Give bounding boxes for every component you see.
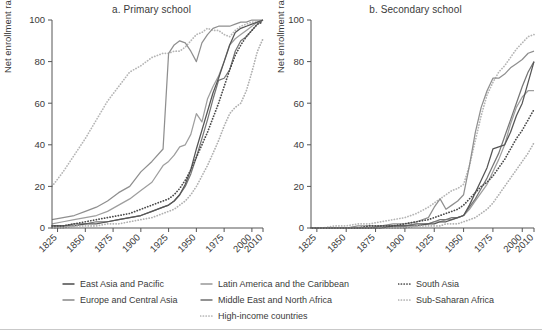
x-tick-label: 1925 bbox=[147, 232, 170, 255]
x-tick-label: 1975 bbox=[472, 232, 495, 255]
series-line-latin_america_caribbean bbox=[311, 91, 534, 228]
legend-item-south_asia[interactable]: South Asia bbox=[398, 276, 538, 292]
series-line-middle_east_north_africa bbox=[311, 62, 534, 228]
x-tick-label: 1825 bbox=[296, 232, 319, 255]
series-line-middle_east_north_africa bbox=[52, 20, 263, 226]
legend-label-latin_america_caribbean: Latin America and the Caribbean bbox=[218, 280, 349, 289]
x-tick-label: 1850 bbox=[325, 232, 348, 255]
panel-b-plot: 0204060801001825185018751900192519501975… bbox=[271, 0, 542, 275]
y-tick-label: 20 bbox=[34, 181, 45, 192]
legend-item-latin_america_caribbean[interactable]: Latin America and the Caribbean bbox=[200, 276, 396, 292]
x-tick-label: 1825 bbox=[36, 232, 59, 255]
x-tick-label: 1975 bbox=[203, 232, 226, 255]
panel-a-plot: 0204060801001825185018751900192519501975… bbox=[0, 0, 271, 275]
series-line-high_income_countries bbox=[311, 35, 534, 228]
legend-label-europe_central_asia: Europe and Central Asia bbox=[80, 296, 178, 305]
y-tick-label: 80 bbox=[34, 56, 45, 67]
legend-swatch-east_asia_pacific-icon bbox=[62, 279, 75, 289]
legend-swatch-south_asia-icon bbox=[398, 279, 411, 289]
y-tick-label: 40 bbox=[34, 139, 45, 150]
panel-b-title: b. Secondary school bbox=[271, 4, 542, 15]
series-line-europe_central_asia bbox=[311, 51, 534, 228]
y-tick-label: 60 bbox=[293, 98, 304, 109]
y-tick-label: 40 bbox=[293, 139, 304, 150]
figure-container: a. Primary school Net enrollment rate (%… bbox=[0, 0, 542, 330]
x-tick-label: 1875 bbox=[354, 232, 377, 255]
legend-item-east_asia_pacific[interactable]: East Asia and Pacific bbox=[62, 276, 202, 292]
panel-b-y-axis-label: Net enrollment rate (%) bbox=[275, 0, 286, 84]
series-line-south_asia bbox=[52, 22, 263, 226]
series-line-east_asia_pacific bbox=[311, 62, 534, 228]
series-line-high_income_countries bbox=[52, 22, 263, 186]
series-line-east_asia_pacific bbox=[52, 20, 263, 226]
legend-swatch-latin_america_caribbean-icon bbox=[200, 279, 213, 289]
legend-swatch-middle_east_north_africa-icon bbox=[200, 295, 213, 305]
y-tick-label: 100 bbox=[288, 14, 304, 25]
legend-swatch-high_income_countries-icon bbox=[200, 311, 213, 321]
legend-item-high_income_countries[interactable]: High-income countries bbox=[200, 308, 396, 324]
panel-a-title: a. Primary school bbox=[0, 4, 271, 15]
legend-label-high_income_countries: High-income countries bbox=[218, 312, 308, 321]
x-tick-label: 1950 bbox=[175, 232, 198, 255]
legend-label-sub_saharan_africa: Sub-Saharan Africa bbox=[416, 296, 494, 305]
panel-a-y-axis-label: Net enrollment rate (%) bbox=[2, 0, 13, 84]
x-tick-label: 1900 bbox=[120, 232, 143, 255]
y-tick-label: 0 bbox=[40, 222, 45, 233]
y-tick-label: 60 bbox=[34, 98, 45, 109]
legend-label-middle_east_north_africa: Middle East and North Africa bbox=[218, 296, 332, 305]
legend-swatch-sub_saharan_africa-icon bbox=[398, 295, 411, 305]
y-tick-label: 100 bbox=[29, 14, 45, 25]
legend-item-europe_central_asia[interactable]: Europe and Central Asia bbox=[62, 292, 202, 308]
series-line-europe_central_asia bbox=[52, 20, 263, 220]
y-tick-label: 0 bbox=[299, 222, 304, 233]
x-tick-label: 1850 bbox=[64, 232, 87, 255]
legend-column-2: Latin America and the CaribbeanMiddle Ea… bbox=[200, 276, 396, 324]
legend-label-south_asia: South Asia bbox=[416, 280, 459, 289]
chart-panels: a. Primary school Net enrollment rate (%… bbox=[0, 0, 542, 275]
legend-label-east_asia_pacific: East Asia and Pacific bbox=[80, 280, 164, 289]
legend-item-middle_east_north_africa[interactable]: Middle East and North Africa bbox=[200, 292, 396, 308]
y-tick-label: 80 bbox=[293, 56, 304, 67]
chart-panel-secondary-school: b. Secondary school Net enrollment rate … bbox=[271, 0, 542, 275]
x-tick-label: 1900 bbox=[384, 232, 407, 255]
legend-swatch-europe_central_asia-icon bbox=[62, 295, 75, 305]
x-tick-label: 1950 bbox=[442, 232, 465, 255]
legend-column-1: East Asia and PacificEurope and Central … bbox=[62, 276, 202, 308]
chart-panel-primary-school: a. Primary school Net enrollment rate (%… bbox=[0, 0, 271, 275]
chart-legend: East Asia and PacificEurope and Central … bbox=[0, 276, 542, 330]
x-tick-label: 1875 bbox=[92, 232, 115, 255]
series-line-sub_saharan_africa bbox=[52, 39, 263, 228]
legend-item-sub_saharan_africa[interactable]: Sub-Saharan Africa bbox=[398, 292, 538, 308]
y-tick-label: 20 bbox=[293, 181, 304, 192]
series-line-latin_america_caribbean bbox=[52, 20, 263, 224]
legend-column-3: South AsiaSub-Saharan Africa bbox=[398, 276, 538, 308]
x-tick-label: 1925 bbox=[413, 232, 436, 255]
